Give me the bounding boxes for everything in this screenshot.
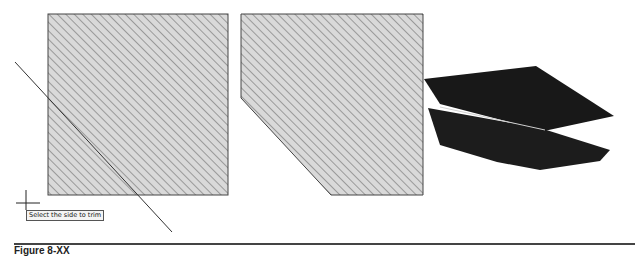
3d-solid-preview <box>424 66 614 170</box>
hatched-shape-after-trim[interactable] <box>241 14 423 195</box>
crosshair-cursor-icon <box>16 190 40 210</box>
hatched-rectangle-before[interactable] <box>48 14 228 195</box>
caption-divider <box>14 243 635 245</box>
command-prompt-tooltip: Select the side to trim <box>26 210 104 221</box>
figure-caption: Figure 8-XX <box>14 246 70 256</box>
